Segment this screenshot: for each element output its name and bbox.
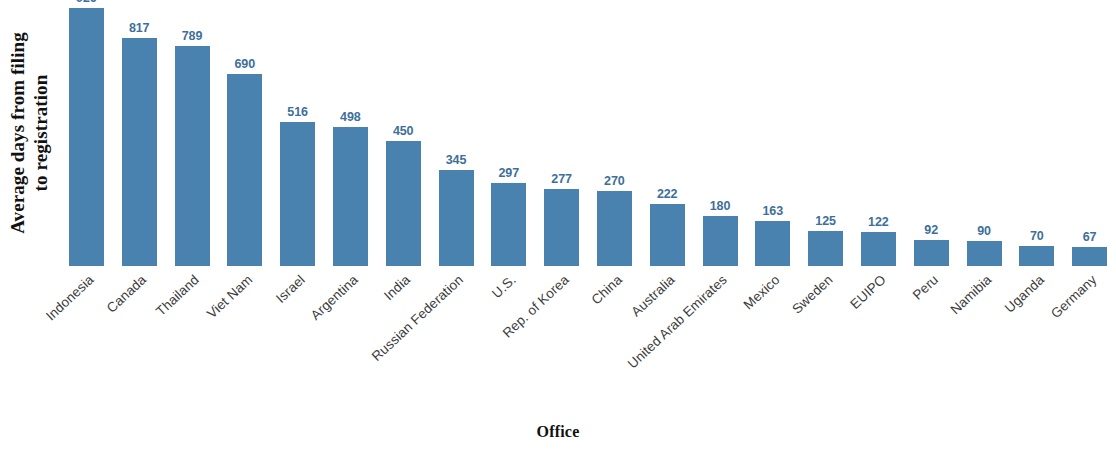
x-tick-label: Canada <box>104 272 149 316</box>
bar-value-label: 690 <box>235 57 256 71</box>
bar-rect <box>227 74 262 266</box>
bar-rect <box>755 221 790 266</box>
x-tick-label: Namibia <box>947 272 994 317</box>
x-axis-tick-labels: IndonesiaCanadaThailandViet NamIsraelArg… <box>60 266 1116 406</box>
bar-rect <box>280 122 315 266</box>
bar-value-label: 70 <box>1030 229 1044 243</box>
bar-rect <box>1072 247 1107 266</box>
x-tick-label: Australia <box>628 272 677 319</box>
bar-indonesia: 926 <box>69 8 104 266</box>
x-tick-label: Indonesia <box>43 272 97 324</box>
bar-value-label: 92 <box>924 223 938 237</box>
bar-rect <box>175 46 210 266</box>
bar-germany: 67 <box>1072 8 1107 266</box>
bar-peru: 92 <box>914 8 949 266</box>
x-axis-title: Office <box>0 423 1116 441</box>
x-tick-label: Israel <box>273 272 308 306</box>
bar-thailand: 789 <box>175 8 210 266</box>
bar-value-label: 67 <box>1083 230 1097 244</box>
x-tick-label: Argentina <box>307 272 360 323</box>
bar-value-label: 450 <box>393 124 414 138</box>
bar-value-label: 90 <box>977 224 991 238</box>
x-tick-label: U.S. <box>489 272 519 301</box>
y-axis-title: Average days from filing to registration <box>0 0 58 266</box>
bar-rect <box>1019 246 1054 266</box>
bar-value-label: 222 <box>657 187 678 201</box>
bar-value-label: 789 <box>182 29 203 43</box>
bar-united-arab-emirates: 180 <box>703 8 738 266</box>
x-tick-label: Russian Federation <box>369 272 466 364</box>
bar-u-s: 297 <box>491 8 526 266</box>
bar-rep-of-korea: 277 <box>544 8 579 266</box>
bar-rect <box>69 8 104 266</box>
plot-area: 9268177896905164984503452972772702221801… <box>60 8 1116 266</box>
bar-value-label: 125 <box>815 214 836 228</box>
bar-rect <box>544 189 579 266</box>
x-tick-label: Germany <box>1048 272 1099 321</box>
bar-uganda: 70 <box>1019 8 1054 266</box>
bar-rect <box>861 232 896 266</box>
bar-argentina: 498 <box>333 8 368 266</box>
bar-rect <box>967 241 1002 266</box>
bar-russian-federation: 345 <box>439 8 474 266</box>
bar-value-label: 122 <box>868 215 889 229</box>
bar-sweden: 125 <box>808 8 843 266</box>
bar-rect <box>808 231 843 266</box>
bar-namibia: 90 <box>967 8 1002 266</box>
bar-value-label: 270 <box>604 174 625 188</box>
bar-canada: 817 <box>122 8 157 266</box>
bar-india: 450 <box>386 8 421 266</box>
x-tick-label: Uganda <box>1002 272 1047 316</box>
x-tick-label: China <box>588 272 624 307</box>
bar-rect <box>386 141 421 266</box>
bar-value-label: 498 <box>340 110 361 124</box>
bar-australia: 222 <box>650 8 685 266</box>
bar-value-label: 926 <box>76 0 97 5</box>
bar-euipo: 122 <box>861 8 896 266</box>
bar-china: 270 <box>597 8 632 266</box>
bar-value-label: 297 <box>499 166 520 180</box>
x-tick-label: EUIPO <box>847 272 888 312</box>
bar-value-label: 277 <box>551 172 572 186</box>
x-tick-label: United Arab Emirates <box>625 272 730 371</box>
bar-value-label: 345 <box>446 153 467 167</box>
bar-mexico: 163 <box>755 8 790 266</box>
bar-rect <box>439 170 474 266</box>
bar-rect <box>491 183 526 266</box>
bar-rect <box>650 204 685 266</box>
x-tick-label: Sweden <box>789 272 835 317</box>
bar-value-label: 180 <box>710 199 731 213</box>
x-tick-label: Mexico <box>741 272 783 313</box>
bar-value-label: 817 <box>129 21 150 35</box>
bar-israel: 516 <box>280 8 315 266</box>
x-tick-label: India <box>381 272 413 303</box>
x-tick-label: Thailand <box>154 272 203 319</box>
x-tick-label: Viet Nam <box>204 272 255 321</box>
bar-rect <box>914 240 949 266</box>
bar-rect <box>597 191 632 266</box>
bar-rect <box>703 216 738 266</box>
bar-viet-nam: 690 <box>227 8 262 266</box>
bar-rect <box>122 38 157 266</box>
bar-value-label: 516 <box>287 105 308 119</box>
bar-rect <box>333 127 368 266</box>
bar-value-label: 163 <box>763 204 784 218</box>
bar-chart: Average days from filing to registration… <box>0 0 1116 453</box>
x-tick-label: Peru <box>910 272 941 303</box>
